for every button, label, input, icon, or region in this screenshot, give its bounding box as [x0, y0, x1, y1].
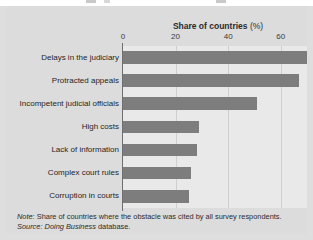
x-tick-label: 60	[276, 32, 285, 41]
bar-row[interactable]	[123, 185, 307, 208]
category-label: Lack of information	[7, 145, 119, 155]
footnotes: Note: Share of countries where the obsta…	[17, 212, 307, 233]
bar[interactable]	[123, 97, 257, 110]
bar[interactable]	[123, 121, 199, 134]
bar[interactable]	[123, 190, 189, 203]
x-axis-title-main: Share of countries	[173, 21, 248, 31]
category-label: Corruption in courts	[7, 191, 119, 201]
x-axis-title-units: (%)	[250, 21, 263, 31]
bar[interactable]	[123, 144, 197, 157]
figure-container: Share of countries (%) Delays in the jud…	[0, 0, 313, 240]
note-line: Note: Share of countries where the obsta…	[17, 212, 307, 222]
category-label: High costs	[7, 122, 119, 132]
category-label: Incompetent judicial officials	[7, 99, 119, 109]
source-rest: database.	[96, 222, 131, 231]
source-line: Source: Doing Business database.	[17, 222, 307, 232]
bar[interactable]	[123, 74, 299, 87]
x-axis-title: Share of countries (%)	[123, 21, 313, 31]
bar-row[interactable]	[123, 139, 307, 162]
bar-row[interactable]	[123, 92, 307, 115]
plot-area: 0204060	[123, 46, 307, 208]
artifact-mark-mid	[104, 0, 110, 3]
x-tick-label: 20	[171, 32, 180, 41]
bar-row[interactable]	[123, 69, 307, 92]
artifact-mark-right	[216, 0, 226, 3]
bar-row[interactable]	[123, 46, 307, 69]
source-label: Source:	[17, 222, 42, 231]
chart-panel: Share of countries (%) Delays in the jud…	[6, 6, 307, 234]
category-label: Delays in the judiciary	[7, 53, 119, 63]
note-label: Note:	[17, 212, 35, 221]
bar[interactable]	[123, 51, 307, 64]
source-publication: Doing Business	[42, 222, 95, 231]
x-tick-label: 40	[224, 32, 233, 41]
bar[interactable]	[123, 167, 191, 180]
note-text: Share of countries where the obstacle wa…	[35, 212, 282, 221]
category-axis-labels: Delays in the judiciaryProtracted appeal…	[6, 46, 119, 208]
bar-row[interactable]	[123, 115, 307, 138]
category-label: Protracted appeals	[7, 76, 119, 86]
category-label: Complex court rules	[7, 168, 119, 178]
bar-row[interactable]	[123, 162, 307, 185]
artifact-mark-left	[86, 0, 96, 3]
x-tick-label: 0	[121, 32, 125, 41]
